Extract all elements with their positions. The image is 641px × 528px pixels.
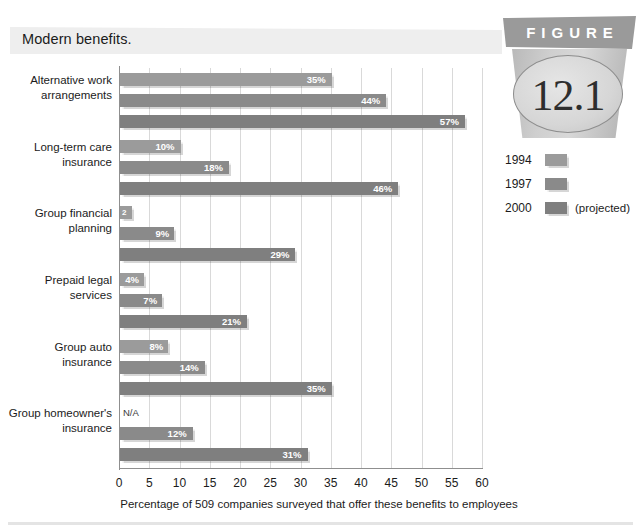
legend-item: 1997 bbox=[505, 172, 641, 196]
bar-value-label: 21% bbox=[222, 315, 241, 328]
bar bbox=[120, 248, 295, 261]
gridline bbox=[422, 68, 423, 468]
category-label: Alternative work arrangements bbox=[0, 73, 112, 103]
x-tick-label: 30 bbox=[286, 476, 316, 490]
legend-item-note: (projected) bbox=[575, 202, 630, 214]
legend-item: 1994 bbox=[505, 148, 641, 172]
category-label: Group auto insurance bbox=[0, 340, 112, 370]
bar-value-label: 29% bbox=[270, 248, 289, 261]
gridline bbox=[482, 68, 483, 468]
x-tick-label: 45 bbox=[376, 476, 406, 490]
x-axis-line bbox=[119, 468, 483, 469]
bar-value-label: 46% bbox=[373, 182, 392, 195]
bar-value-label: 4% bbox=[125, 273, 139, 286]
bar-value-label: 7% bbox=[143, 294, 157, 307]
x-tick-label: 35 bbox=[316, 476, 346, 490]
x-tick-label: 5 bbox=[134, 476, 164, 490]
gridline bbox=[391, 68, 392, 468]
gridline bbox=[301, 68, 302, 468]
category-label: Long-term care insurance bbox=[0, 140, 112, 170]
legend-swatch bbox=[545, 202, 567, 214]
bar bbox=[120, 182, 398, 195]
bar-value-label: 44% bbox=[361, 94, 380, 107]
bottom-divider bbox=[8, 522, 633, 525]
gridline bbox=[149, 68, 150, 468]
gridline bbox=[331, 68, 332, 468]
bar-value-label: 10% bbox=[156, 140, 175, 153]
x-tick-label: 60 bbox=[467, 476, 497, 490]
bar bbox=[120, 73, 332, 86]
x-tick-label: 15 bbox=[195, 476, 225, 490]
x-tick-label: 20 bbox=[225, 476, 255, 490]
bar-value-label: 35% bbox=[307, 382, 326, 395]
bar-value-label: 8% bbox=[149, 340, 163, 353]
category-label: Group financial planning bbox=[0, 206, 112, 236]
x-axis-title: Percentage of 509 companies surveyed tha… bbox=[119, 498, 519, 510]
legend-item-label: 1994 bbox=[505, 153, 541, 167]
bar bbox=[120, 115, 465, 128]
legend-item-label: 1997 bbox=[505, 177, 541, 191]
bar-value-label: 9% bbox=[155, 227, 169, 240]
gridline bbox=[180, 68, 181, 468]
bar-value-label: 31% bbox=[283, 448, 302, 461]
bar-value-label: 57% bbox=[440, 115, 459, 128]
x-tick-label: 55 bbox=[437, 476, 467, 490]
bar bbox=[120, 448, 308, 461]
bar-value-label: 12% bbox=[168, 427, 187, 440]
bar-value-label: N/A bbox=[123, 406, 139, 419]
legend-item: 2000(projected) bbox=[505, 196, 641, 220]
x-tick-label: 25 bbox=[255, 476, 285, 490]
bar-value-label: 35% bbox=[307, 73, 326, 86]
bar bbox=[120, 382, 332, 395]
gridline bbox=[210, 68, 211, 468]
legend-swatch bbox=[545, 178, 567, 190]
y-axis-line bbox=[119, 66, 120, 470]
gridline bbox=[361, 68, 362, 468]
bar bbox=[120, 94, 386, 107]
gridline bbox=[270, 68, 271, 468]
legend-swatch bbox=[545, 154, 567, 166]
legend-item-label: 2000 bbox=[505, 201, 541, 215]
gridline bbox=[452, 68, 453, 468]
x-tick-label: 50 bbox=[407, 476, 437, 490]
x-tick-label: 0 bbox=[104, 476, 134, 490]
bar-value-label: 14% bbox=[180, 361, 199, 374]
category-axis-labels: Alternative work arrangementsLong-term c… bbox=[0, 0, 112, 528]
bar-value-label: 2 bbox=[122, 206, 126, 219]
bar-chart: Alternative work arrangementsLong-term c… bbox=[0, 0, 641, 528]
category-label: Group homeowner's insurance bbox=[0, 406, 112, 436]
gridline bbox=[240, 68, 241, 468]
x-tick-label: 10 bbox=[165, 476, 195, 490]
plot-area: 35%44%57%10%18%46%29%29%4%7%21%8%14%35%N… bbox=[119, 68, 482, 468]
x-tick-label: 40 bbox=[346, 476, 376, 490]
chart-legend: 199419972000(projected) bbox=[505, 148, 641, 220]
category-label: Prepaid legal services bbox=[0, 273, 112, 303]
bar-value-label: 18% bbox=[204, 161, 223, 174]
